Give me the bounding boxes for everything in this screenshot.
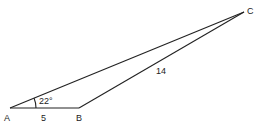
vertex-a-label: A xyxy=(4,113,10,123)
side-bc-label: 14 xyxy=(156,66,166,76)
angle-a-arc xyxy=(34,98,36,108)
triangle-diagram: A B C 5 14 22° xyxy=(0,0,259,124)
angle-a-label: 22° xyxy=(39,96,53,106)
side-ac xyxy=(10,12,244,108)
side-ab-label: 5 xyxy=(41,113,46,123)
vertex-c-label: C xyxy=(247,6,254,16)
vertex-b-label: B xyxy=(76,113,82,123)
side-bc xyxy=(79,12,244,108)
